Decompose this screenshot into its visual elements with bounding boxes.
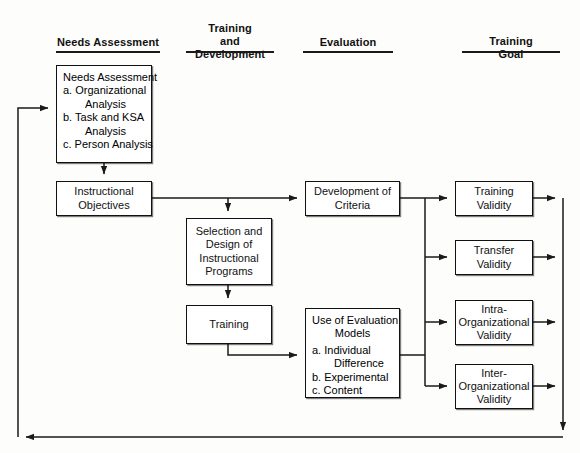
node-list-item: b. Task and KSA [63, 111, 145, 124]
node-line: Criteria [314, 199, 391, 212]
node-line: Development of [314, 185, 391, 198]
node-line: Validity [459, 393, 530, 406]
node-training-validity[interactable]: Training Validity [455, 181, 533, 216]
node-line: Validity [474, 258, 515, 271]
node-heading: Use of Evaluation [312, 314, 393, 327]
node-list-item: a. Individual [312, 344, 393, 357]
node-needs-assessment[interactable]: Needs Assessment a. Organizational Analy… [56, 65, 152, 163]
node-heading: Needs Assessment [63, 71, 145, 84]
node-line: Inter- [459, 367, 530, 380]
node-heading: Models [312, 327, 393, 340]
node-line: Objectives [74, 199, 133, 212]
node-list-item: Analysis [63, 98, 145, 111]
node-line: Organizational [459, 316, 530, 329]
node-line: Training [474, 185, 513, 198]
node-list-item: a. Organizational [63, 84, 145, 97]
node-line: Intra- [459, 303, 530, 316]
node-transfer-validity[interactable]: Transfer Validity [455, 240, 533, 275]
node-selection-and-design[interactable]: Selection and Design of Instructional Pr… [186, 218, 272, 285]
node-list-item: c. Content [312, 384, 393, 397]
node-line: Programs [196, 265, 263, 278]
node-instructional-objectives[interactable]: Instructional Objectives [56, 181, 152, 216]
node-line: Instructional [196, 252, 263, 265]
node-line: Transfer [474, 244, 515, 257]
diagram-canvas: Needs Assessment Training and Developmen… [0, 0, 580, 453]
node-line: Organizational [459, 380, 530, 393]
node-line: Instructional [74, 185, 133, 198]
node-list-item: b. Experimental [312, 371, 393, 384]
node-inter-organizational-validity[interactable]: Inter- Organizational Validity [455, 364, 533, 409]
node-line: Design of [196, 238, 263, 251]
node-line: Validity [459, 329, 530, 342]
node-line: Validity [474, 199, 513, 212]
node-training[interactable]: Training [186, 305, 272, 344]
node-line: Selection and [196, 225, 263, 238]
node-list-item: Difference [312, 357, 393, 370]
node-intra-organizational-validity[interactable]: Intra- Organizational Validity [455, 300, 533, 345]
wire-feedback-riser [18, 108, 48, 437]
node-use-of-evaluation-models[interactable]: Use of Evaluation Models a. Individual D… [305, 308, 400, 398]
node-list-item: c. Person Analysis [63, 138, 145, 151]
wire-training-to-evaluation-models [228, 344, 297, 355]
node-development-of-criteria[interactable]: Development of Criteria [305, 181, 400, 216]
node-list-item: Analysis [63, 125, 145, 138]
node-line: Training [209, 318, 248, 331]
